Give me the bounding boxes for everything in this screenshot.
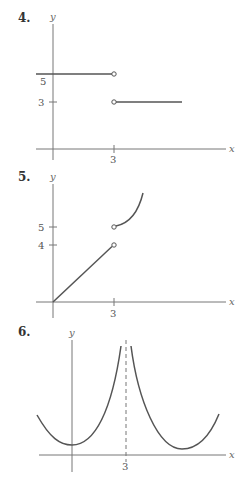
graph-6-right-branch: [131, 346, 219, 449]
graph-4-x-tick-label: 3: [110, 154, 116, 165]
graph-5-linear-segment: [53, 247, 112, 303]
graph-5: 5. y x 3 5 4: [18, 170, 235, 319]
graph-5-curve: [116, 193, 143, 226]
graph-6-y-label: y: [68, 327, 75, 338]
graph-6-left-branch: [37, 346, 121, 445]
graph-4-label: 4.: [18, 11, 31, 25]
graph-5-y-label: y: [49, 171, 56, 182]
graph-4: 4. y x 3 3 5: [18, 11, 235, 165]
graph-5-label: 5.: [18, 170, 31, 184]
graph-5-y-tick-lower-label: 4: [38, 240, 44, 251]
graph-4-y-label: y: [49, 11, 56, 22]
graph-4-open-circle-lower: [112, 100, 116, 104]
graph-5-x-label: x: [229, 296, 235, 307]
graph-5-open-circle-lower: [112, 243, 116, 247]
graph-5-y-tick-upper-label: 5: [38, 222, 44, 233]
figure-canvas: 4. y x 3 3 5 5. y x 3 5 4 6. y: [0, 0, 247, 483]
graph-4-y-tick-upper-label: 5: [40, 76, 46, 87]
graph-6-x-label: x: [229, 449, 235, 460]
graph-6-x-tick-label: 3: [122, 461, 128, 472]
graph-5-x-tick-label: 3: [110, 308, 116, 319]
graph-5-open-circle-upper: [112, 225, 116, 229]
graph-4-y-tick-lower-label: 3: [38, 97, 44, 108]
graph-4-x-label: x: [229, 143, 235, 154]
graph-6-label: 6.: [18, 325, 31, 339]
graph-4-open-circle-upper: [112, 72, 116, 76]
graph-6: 6. y x 3: [18, 325, 235, 472]
